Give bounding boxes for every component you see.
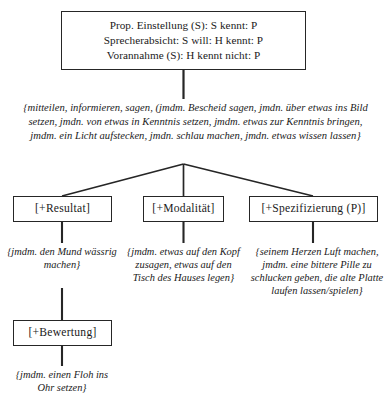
branch-box-modalitaet: [+Modalität] — [143, 196, 224, 222]
sub-branch-box-bewertung: [+Bewertung] — [13, 320, 112, 346]
speech-act-diagram: Prop. Einstellung (S): S kennt: P Sprech… — [0, 0, 391, 401]
main-verb-gloss: {mitteilen, informieren, sagen, (jmdm. B… — [21, 101, 370, 144]
sub-branch-label-bewertung: [+Bewertung] — [28, 326, 96, 340]
branch-label-modalitaet: [+Modalität] — [152, 202, 214, 216]
gloss-spezifizierung: {seinem Herzen Luft machen, jmdm. eine b… — [247, 245, 387, 297]
root-conditions-box: Prop. Einstellung (S): S kennt: P Sprech… — [61, 11, 306, 70]
connector-apex-to-right-branch — [184, 164, 314, 196]
gloss-modalitaet: {jmdm. etwas auf den Kopf zusagen, etwas… — [127, 245, 240, 284]
root-line-2: Sprecherabsicht: S will: H kennt: P — [104, 33, 263, 48]
connector-apex-to-left-branch — [62, 164, 184, 196]
gloss-bewertung: {jmdm. einen Floh ins Ohr setzen} — [9, 368, 115, 394]
root-line-3: Vorannahme (S): H kennt nicht: P — [107, 48, 260, 63]
root-line-1: Prop. Einstellung (S): S kennt: P — [110, 18, 258, 33]
branch-box-spezifizierung: [+Spezifizierung (P)] — [249, 196, 378, 222]
gloss-resultat: {jmdm. den Mund wässrig machen} — [7, 245, 117, 271]
branch-label-resultat: [+Resultat] — [35, 202, 90, 216]
branch-label-spezifizierung: [+Spezifizierung (P)] — [261, 202, 365, 216]
branch-box-resultat: [+Resultat] — [13, 196, 112, 222]
